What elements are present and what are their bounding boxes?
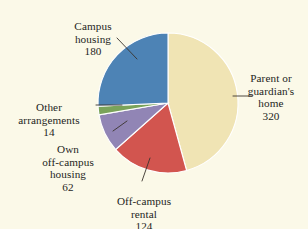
pie-label-parent-home: Parent or guardian's home 320 (236, 60, 306, 134)
pie-label-off-campus-rental-text: Off-campus rental (117, 195, 171, 219)
pie-label-parent-home-text: Parent or guardian's home (248, 72, 295, 109)
pie-label-campus-housing: Campus housing 180 (56, 8, 130, 70)
pie-label-campus-housing-text: Campus housing (74, 20, 111, 44)
pie-label-other-arrangements-text: Other arrangements (18, 101, 79, 125)
pie-label-own-off-campus-housing-value: 62 (28, 181, 108, 193)
pie-label-off-campus-rental: Off-campus rental 124 (103, 183, 185, 229)
pie-label-own-off-campus-housing: Own off-campus housing 62 (28, 131, 108, 205)
pie-label-off-campus-rental-value: 124 (103, 220, 185, 229)
pie-chart: Campus housing 180 Parent or guardian's … (0, 0, 308, 229)
pie-label-own-off-campus-housing-text: Own off-campus housing (42, 143, 94, 180)
pie-label-parent-home-value: 320 (236, 110, 306, 122)
pie-label-campus-housing-value: 180 (56, 45, 130, 57)
